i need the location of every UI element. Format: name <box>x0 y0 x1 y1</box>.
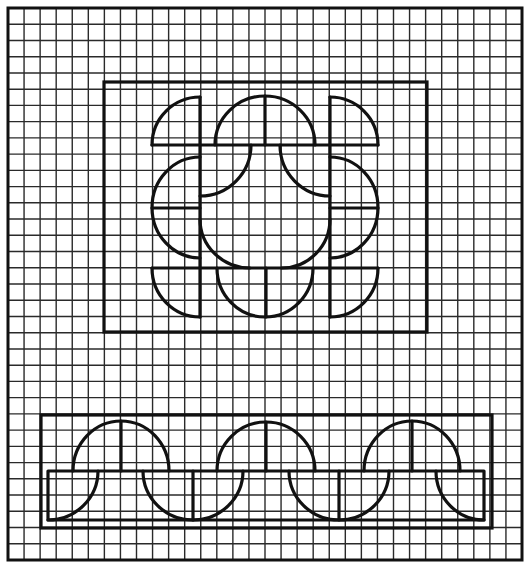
geometric-pattern-diagram <box>0 0 531 566</box>
